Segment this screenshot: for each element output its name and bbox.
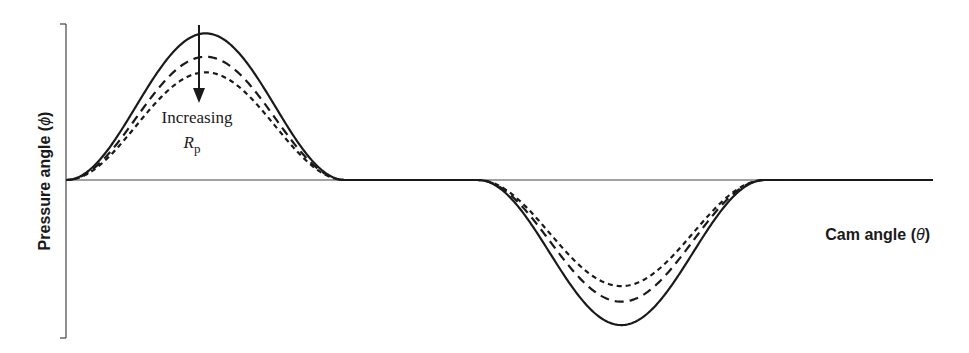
x-axis-label: Cam angle (θ) — [825, 226, 930, 243]
arrow-head-icon — [193, 88, 205, 103]
annotation-symbol-sub: p — [194, 141, 201, 156]
annotation-text: Increasing — [162, 108, 233, 127]
series-line-dotted — [66, 72, 933, 286]
x-axis-label-symbol: θ — [916, 226, 925, 243]
x-axis-label-close: ) — [925, 226, 930, 243]
annotation-symbol-r: R — [183, 133, 195, 152]
increasing-rp-annotation: Increasing Rp — [162, 25, 233, 156]
y-axis-label-symbol: ϕ — [36, 117, 53, 126]
x-axis-label-text: Cam angle — [825, 226, 906, 243]
annotation-symbol: Rp — [183, 133, 201, 156]
y-axis-label: Pressure angle (ϕ) — [36, 112, 53, 251]
pressure-angle-chart: Increasing Rp Pressure angle (ϕ) Cam ang… — [0, 0, 969, 353]
y-axis-label-text: Pressure angle — [36, 136, 53, 251]
series-group — [66, 33, 933, 325]
y-axis-label-close: ) — [36, 112, 53, 117]
